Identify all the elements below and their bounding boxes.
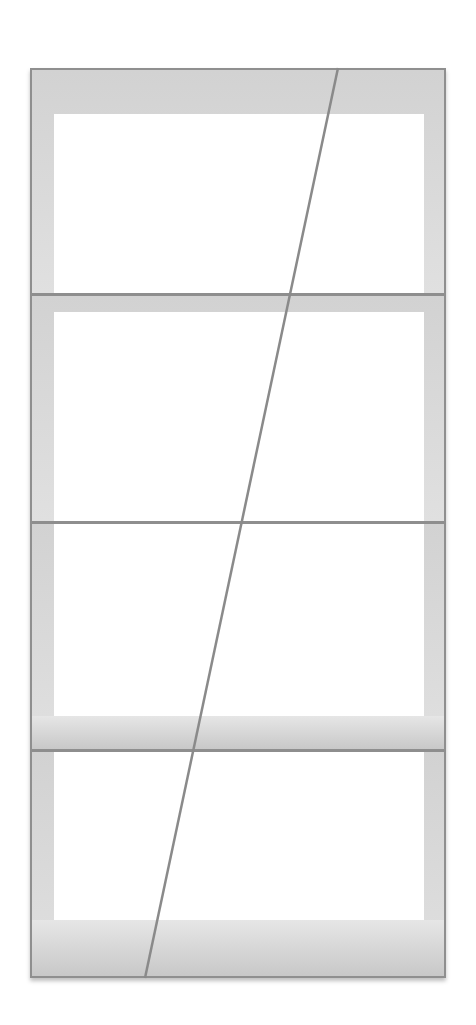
diagonal-rod: [0, 0, 476, 1025]
